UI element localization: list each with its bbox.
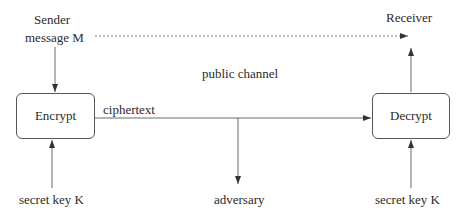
- sender-label: Sender: [34, 12, 70, 27]
- secret-key-right-label: secret key K: [375, 192, 440, 207]
- adversary-label: adversary: [214, 192, 265, 207]
- ciphertext-label: ciphertext: [103, 102, 155, 117]
- secret-key-left-label: secret key K: [19, 192, 84, 207]
- decrypt-box: Decrypt: [372, 93, 450, 139]
- message-label: message M: [25, 30, 84, 45]
- public-channel-label: public channel: [202, 66, 278, 81]
- encrypt-label: Encrypt: [35, 108, 76, 124]
- receiver-label: Receiver: [386, 10, 432, 25]
- decrypt-label: Decrypt: [390, 108, 432, 124]
- encrypt-box: Encrypt: [16, 93, 95, 139]
